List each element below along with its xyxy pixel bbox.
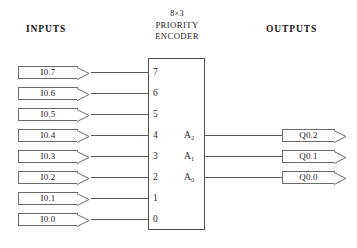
block-output-pin-a2-sub: 2 bbox=[191, 134, 194, 141]
output-tag-label: Q0.0 bbox=[282, 171, 335, 184]
block-output-pin-a0: A0 bbox=[184, 172, 204, 183]
input-tag[interactable]: I0.0 bbox=[18, 213, 91, 226]
input-tag-arrow-icon bbox=[77, 87, 90, 100]
input-tag-arrow-icon bbox=[77, 129, 90, 142]
block-output-pin-a0-sub: 0 bbox=[191, 176, 194, 183]
input-wire-7 bbox=[91, 72, 149, 73]
block-input-pin-1: 1 bbox=[153, 193, 165, 203]
block-input-pin-5: 5 bbox=[153, 109, 165, 119]
input-tag-label: I0.0 bbox=[18, 213, 78, 226]
input-tag-label: I0.5 bbox=[18, 108, 78, 121]
input-wire-3 bbox=[91, 156, 149, 157]
block-title-line-3: ENCODER bbox=[128, 31, 226, 43]
input-tag-label: I0.4 bbox=[18, 129, 78, 142]
input-tag[interactable]: I0.3 bbox=[18, 150, 91, 163]
input-wire-5 bbox=[91, 114, 149, 115]
input-wire-1 bbox=[91, 198, 149, 199]
block-title-line-1: 8×3 bbox=[128, 8, 226, 20]
input-wire-2 bbox=[91, 177, 149, 178]
input-tag-arrow-icon bbox=[77, 66, 90, 79]
block-output-pin-a0-name: A bbox=[184, 172, 191, 182]
input-wire-6 bbox=[91, 93, 149, 94]
encoder-block bbox=[148, 58, 205, 230]
output-wire-a0 bbox=[204, 177, 283, 178]
block-title: 8×3 PRIORITY ENCODER bbox=[128, 8, 226, 43]
output-tag-label: Q0.2 bbox=[282, 129, 335, 142]
inputs-heading: INPUTS bbox=[26, 24, 66, 34]
input-tag-label: I0.1 bbox=[18, 192, 78, 205]
input-wire-0 bbox=[91, 219, 149, 220]
input-tag-label: I0.2 bbox=[18, 171, 78, 184]
output-tag-arrow-icon bbox=[334, 150, 347, 163]
input-tag[interactable]: I0.5 bbox=[18, 108, 91, 121]
block-output-pin-a1-name: A bbox=[184, 151, 191, 161]
block-input-pin-0: 0 bbox=[153, 214, 165, 224]
block-input-pin-7: 7 bbox=[153, 67, 165, 77]
output-tag-arrow-icon bbox=[334, 129, 347, 142]
output-tag[interactable]: Q0.2 bbox=[282, 129, 348, 142]
input-tag[interactable]: I0.1 bbox=[18, 192, 91, 205]
block-input-pin-3: 3 bbox=[153, 151, 165, 161]
output-tag[interactable]: Q0.0 bbox=[282, 171, 348, 184]
block-input-pin-4: 4 bbox=[153, 130, 165, 140]
outputs-heading: OUTPUTS bbox=[266, 24, 317, 34]
output-tag-arrow-icon bbox=[334, 171, 347, 184]
input-tag-arrow-icon bbox=[77, 171, 90, 184]
block-output-pin-a1-sub: 1 bbox=[191, 155, 194, 162]
input-tag-arrow-icon bbox=[77, 150, 90, 163]
input-tag-arrow-icon bbox=[77, 192, 90, 205]
input-tag-arrow-icon bbox=[77, 108, 90, 121]
input-tag-label: I0.6 bbox=[18, 87, 78, 100]
input-tag-label: I0.3 bbox=[18, 150, 78, 163]
output-wire-a2 bbox=[204, 135, 283, 136]
input-tag-arrow-icon bbox=[77, 213, 90, 226]
input-tag[interactable]: I0.6 bbox=[18, 87, 91, 100]
diagram-canvas: INPUTS OUTPUTS 8×3 PRIORITY ENCODER 7 6 … bbox=[0, 0, 357, 248]
block-input-pin-2: 2 bbox=[153, 172, 165, 182]
input-wire-4 bbox=[91, 135, 149, 136]
output-tag[interactable]: Q0.1 bbox=[282, 150, 348, 163]
output-tag-label: Q0.1 bbox=[282, 150, 335, 163]
input-tag[interactable]: I0.7 bbox=[18, 66, 91, 79]
input-tag-label: I0.7 bbox=[18, 66, 78, 79]
input-tag[interactable]: I0.4 bbox=[18, 129, 91, 142]
block-title-line-2: PRIORITY bbox=[128, 20, 226, 32]
block-output-pin-a1: A1 bbox=[184, 151, 204, 162]
output-wire-a1 bbox=[204, 156, 283, 157]
block-output-pin-a2-name: A bbox=[184, 130, 191, 140]
input-tag[interactable]: I0.2 bbox=[18, 171, 91, 184]
block-input-pin-6: 6 bbox=[153, 88, 165, 98]
block-output-pin-a2: A2 bbox=[184, 130, 204, 141]
